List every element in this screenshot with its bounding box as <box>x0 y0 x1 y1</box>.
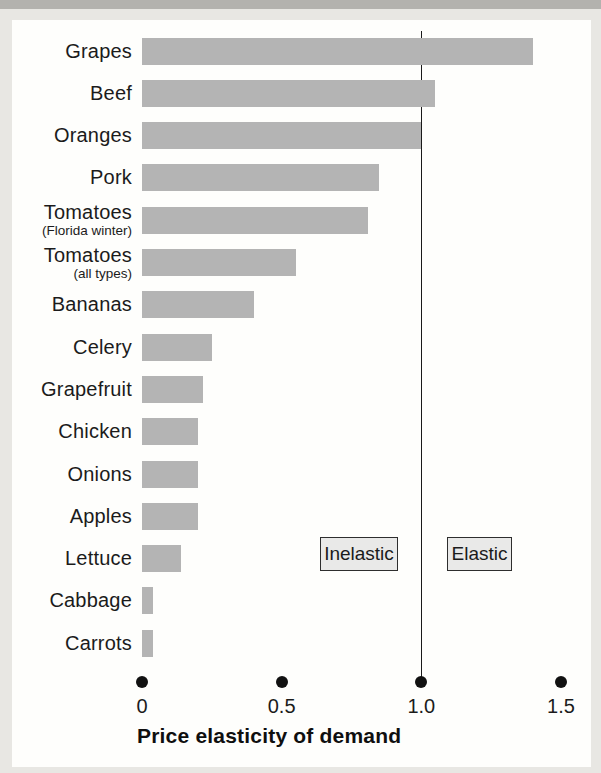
category-label: Pork <box>12 157 132 199</box>
category-label: Chicken <box>12 411 132 453</box>
axis-tick-dot <box>415 676 427 688</box>
category-label-text: Carrots <box>65 633 132 654</box>
category-sublabel-text: (all types) <box>73 266 132 281</box>
category-label: Tomatoes(Florida winter) <box>12 199 132 241</box>
category-label-text: Chicken <box>58 421 132 442</box>
category-label-text: Tomatoes <box>44 245 132 266</box>
category-label-text: Apples <box>70 506 132 527</box>
bar-celery <box>142 334 212 361</box>
bar-bananas <box>142 291 254 318</box>
axis-tick-label: 1.0 <box>391 695 451 718</box>
category-label-text: Tomatoes <box>44 202 132 223</box>
bar-beef <box>142 80 435 107</box>
category-label: Onions <box>12 453 132 495</box>
bar-tomatoes-florida-winter <box>142 207 368 234</box>
bar-onions <box>142 461 198 488</box>
inelastic-label: Inelastic <box>324 543 394 564</box>
category-label: Beef <box>12 72 132 114</box>
category-label-text: Onions <box>67 464 132 485</box>
axis-tick-dot <box>555 676 567 688</box>
category-label: Apples <box>12 495 132 537</box>
bar-cabbage <box>142 587 153 614</box>
bar-lettuce <box>142 545 181 572</box>
chart-panel: Inelastic Elastic Price elasticity of de… <box>12 20 591 767</box>
category-label: Grapes <box>12 30 132 72</box>
bar-oranges <box>142 122 421 149</box>
bar-apples <box>142 503 198 530</box>
axis-tick-dot <box>276 676 288 688</box>
bar-pork <box>142 164 379 191</box>
category-label: Bananas <box>12 284 132 326</box>
x-axis-title: Price elasticity of demand <box>137 724 401 748</box>
category-label-text: Grapefruit <box>41 379 132 400</box>
elastic-label-box: Elastic <box>447 537 512 571</box>
elastic-label: Elastic <box>452 543 508 564</box>
page-top-edge-strip <box>0 0 601 9</box>
bar-tomatoes-all-types <box>142 249 296 276</box>
category-label-text: Celery <box>73 337 132 358</box>
category-label-text: Lettuce <box>65 548 132 569</box>
category-label-text: Cabbage <box>49 590 132 611</box>
category-label-text: Bananas <box>52 294 132 315</box>
axis-tick-dot <box>136 676 148 688</box>
axis-tick-label: 0 <box>112 695 172 718</box>
category-label-text: Pork <box>90 167 132 188</box>
category-label: Oranges <box>12 115 132 157</box>
category-label: Tomatoes(all types) <box>12 242 132 284</box>
category-label: Celery <box>12 326 132 368</box>
category-label: Carrots <box>12 622 132 664</box>
category-label: Lettuce <box>12 538 132 580</box>
category-label-text: Oranges <box>54 125 132 146</box>
bar-grapes <box>142 38 533 65</box>
category-label-text: Beef <box>90 83 132 104</box>
category-label: Cabbage <box>12 580 132 622</box>
inelastic-label-box: Inelastic <box>320 537 398 571</box>
bar-carrots <box>142 630 153 657</box>
category-label: Grapefruit <box>12 368 132 410</box>
bar-chicken <box>142 418 198 445</box>
category-sublabel-text: (Florida winter) <box>42 223 132 238</box>
bar-grapefruit <box>142 376 203 403</box>
axis-tick-label: 0.5 <box>252 695 312 718</box>
axis-tick-label: 1.5 <box>531 695 591 718</box>
category-label-text: Grapes <box>65 41 132 62</box>
